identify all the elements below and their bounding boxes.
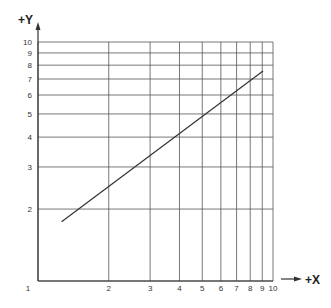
- y-axis-arrow-icon: [36, 22, 41, 42]
- x-tick-label: 1: [26, 284, 31, 293]
- series-line: [62, 71, 263, 222]
- x-tick-label: 8: [248, 284, 253, 293]
- y-tick-label: 5: [28, 110, 33, 119]
- x-axis-arrow-icon: [281, 277, 302, 282]
- y-tick-label: 7: [28, 75, 33, 84]
- x-tick-labels: 12345678910: [26, 284, 278, 293]
- y-tick-label: 4: [28, 133, 33, 142]
- data-series: [62, 71, 263, 222]
- y-tick-label: 8: [28, 61, 33, 70]
- y-tick-label: 3: [28, 163, 33, 172]
- x-tick-label: 2: [107, 284, 112, 293]
- y-tick-labels: 2345678910: [23, 38, 32, 214]
- grid-lines: [38, 42, 273, 281]
- y-tick-label: 9: [28, 49, 33, 58]
- x-tick-label: 7: [234, 284, 239, 293]
- x-tick-label: 6: [219, 284, 224, 293]
- x-tick-label: 4: [177, 284, 182, 293]
- y-tick-label: 2: [28, 205, 33, 214]
- axes: [38, 42, 273, 281]
- x-axis-label: +X: [305, 273, 320, 287]
- x-tick-label: 10: [269, 284, 278, 293]
- y-tick-label: 6: [28, 91, 33, 100]
- x-tick-label: 3: [148, 284, 153, 293]
- y-axis-label: +Y: [18, 13, 33, 27]
- y-tick-label: 10: [23, 38, 32, 47]
- x-tick-label: 5: [200, 284, 205, 293]
- x-tick-label: 9: [260, 284, 265, 293]
- log-log-chart: 12345678910 2345678910 +Y +X: [0, 0, 331, 308]
